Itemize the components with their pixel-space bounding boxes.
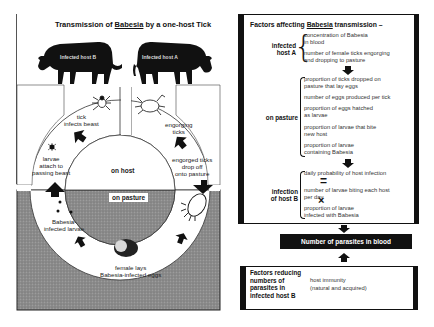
- label-infected-larvae: Babesia- infected larvae: [44, 218, 84, 232]
- label-engorging-ticks: engorging ticks: [165, 121, 193, 135]
- factors-panel: Factors affecting Babesia transmission –…: [238, 14, 419, 224]
- factor-item: daily probability of host infection: [304, 170, 386, 177]
- group-heading-host-b: infection of host B: [252, 188, 298, 202]
- factor-item: number of female ticks engorging and dro…: [304, 50, 390, 63]
- label-larvae-attach: larvae attach to passing beast: [32, 155, 70, 176]
- equals-sign: =: [320, 175, 327, 187]
- reducing-factors-heading: Factors reducing numbers of parasites in…: [250, 269, 301, 299]
- factor-item: proportion of larvae containing Babesia: [304, 142, 354, 155]
- cow-a-label: Infected host A: [142, 54, 178, 61]
- cow-a-icon: [133, 42, 212, 84]
- factor-item: proportion of eggs hatched as larvae: [304, 105, 373, 118]
- label-on-pasture: on pasture: [109, 193, 148, 202]
- label-engorged-drop: engorged ticks drop off onto pasture: [172, 156, 212, 177]
- label-on-host: on host: [111, 167, 134, 174]
- arrow-down-icon-head: [338, 228, 350, 233]
- arrow-down-icon-head: [342, 163, 354, 168]
- group-heading-on-pasture: on pasture: [248, 114, 298, 121]
- factor-item: proportion of larvae infected with Babes…: [304, 205, 359, 218]
- factor-item: number of larvae biting each host per da…: [304, 187, 390, 200]
- reducing-factors-panel: Factors reducing numbers of parasites in…: [240, 266, 418, 310]
- factor-item: number of eggs produced per tick: [304, 94, 390, 101]
- label-tick-infects-beast: tick infects beast: [64, 113, 99, 127]
- label-female-lays: female lays Babesia-infected eggs: [100, 264, 161, 278]
- arrow-down-icon-head: [342, 70, 354, 75]
- cow-b-icon: [38, 42, 122, 84]
- result-bar-parasites: Number of parasites in blood: [280, 234, 412, 249]
- egg-mass-icon: [114, 239, 138, 257]
- factors-title: Factors affecting Babesia transmission –: [250, 21, 383, 28]
- factor-item: proportion of ticks dropped on pasture t…: [304, 76, 381, 89]
- reducing-factors-text: host immunity (natural and acquired): [310, 276, 367, 292]
- group-heading-host-a: infected host A: [252, 42, 296, 56]
- arrow-up-icon: [341, 258, 347, 262]
- factor-item: proportion of larvae that bite new host: [304, 124, 376, 137]
- cow-b-label: Infected host B: [60, 54, 96, 61]
- factor-item: concentration of Babesia in blood: [304, 32, 368, 45]
